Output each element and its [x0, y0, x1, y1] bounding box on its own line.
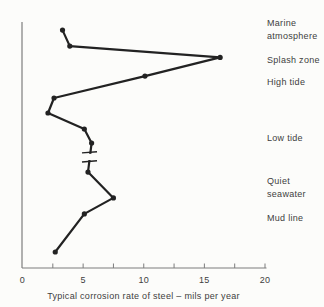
zone-label-high-tide: High tide	[267, 76, 305, 89]
zone-label-low-tide: Low tide	[267, 132, 303, 145]
x-axis-tick-label: 0	[20, 275, 25, 285]
data-point-dot	[60, 28, 65, 33]
line-break-tick	[82, 161, 97, 162]
zone-label-line: Quiet	[267, 175, 306, 188]
x-axis-tick-label: 20	[260, 275, 271, 285]
x-axis-tick-label: 15	[199, 275, 210, 285]
zone-label-line: Mud line	[267, 212, 303, 225]
data-point-dot	[51, 95, 56, 100]
zone-label-line: Marine	[267, 17, 318, 30]
corrosion-profile-figure: 05101520 Marine atmosphere Splash zone H…	[0, 0, 324, 307]
line-break-tick	[82, 152, 97, 153]
zone-label-line: seawater	[267, 188, 306, 201]
x-axis-tick-label: 5	[80, 275, 85, 285]
data-point-dot	[82, 126, 87, 131]
zone-label-splash-zone: Splash zone	[267, 54, 320, 67]
zone-label-line: High tide	[267, 76, 305, 89]
data-point-dot	[85, 169, 90, 174]
zone-label-line: Splash zone	[267, 54, 320, 67]
x-axis-caption: Typical corrosion rate of steel – mils p…	[0, 291, 287, 301]
zone-label-mud-line: Mud line	[267, 212, 303, 225]
data-point-dot	[218, 55, 223, 60]
line-break-gap	[80, 154, 100, 160]
zone-label-line: atmosphere	[267, 30, 318, 43]
corrosion-chart: 05101520	[0, 0, 324, 307]
data-point-dot	[82, 211, 87, 216]
data-point-dot	[53, 249, 58, 254]
data-point-dot	[142, 74, 147, 79]
data-point-dot	[45, 110, 50, 115]
zone-label-quiet-seawater: Quiet seawater	[267, 175, 306, 201]
data-point-dot	[67, 44, 72, 49]
x-axis-tick-label: 10	[138, 275, 149, 285]
data-point-dot	[89, 140, 94, 145]
data-point-dot	[111, 195, 116, 200]
zone-label-marine-atmosphere: Marine atmosphere	[267, 17, 318, 43]
zone-label-line: Low tide	[267, 132, 303, 145]
corrosion-profile-line	[48, 30, 220, 252]
